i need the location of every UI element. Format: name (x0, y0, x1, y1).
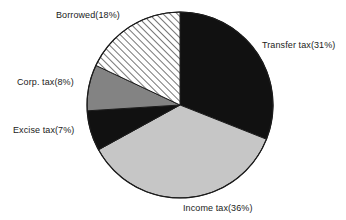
pie-chart-canvas (0, 0, 346, 220)
pie-slice-layer (87, 12, 273, 198)
slice-label-excise-tax: Excise tax(7%) (13, 125, 74, 136)
slice-label-corp-tax: Corp. tax(8%) (17, 77, 74, 88)
slice-label-transfer-tax: Transfer tax(31%) (262, 40, 335, 51)
slice-label-borrowed: Borrowed(18%) (56, 10, 120, 21)
pie-chart: Borrowed(18%) Transfer tax(31%) Corp. ta… (0, 0, 346, 220)
slice-label-income-tax: Income tax(36%) (183, 203, 253, 214)
